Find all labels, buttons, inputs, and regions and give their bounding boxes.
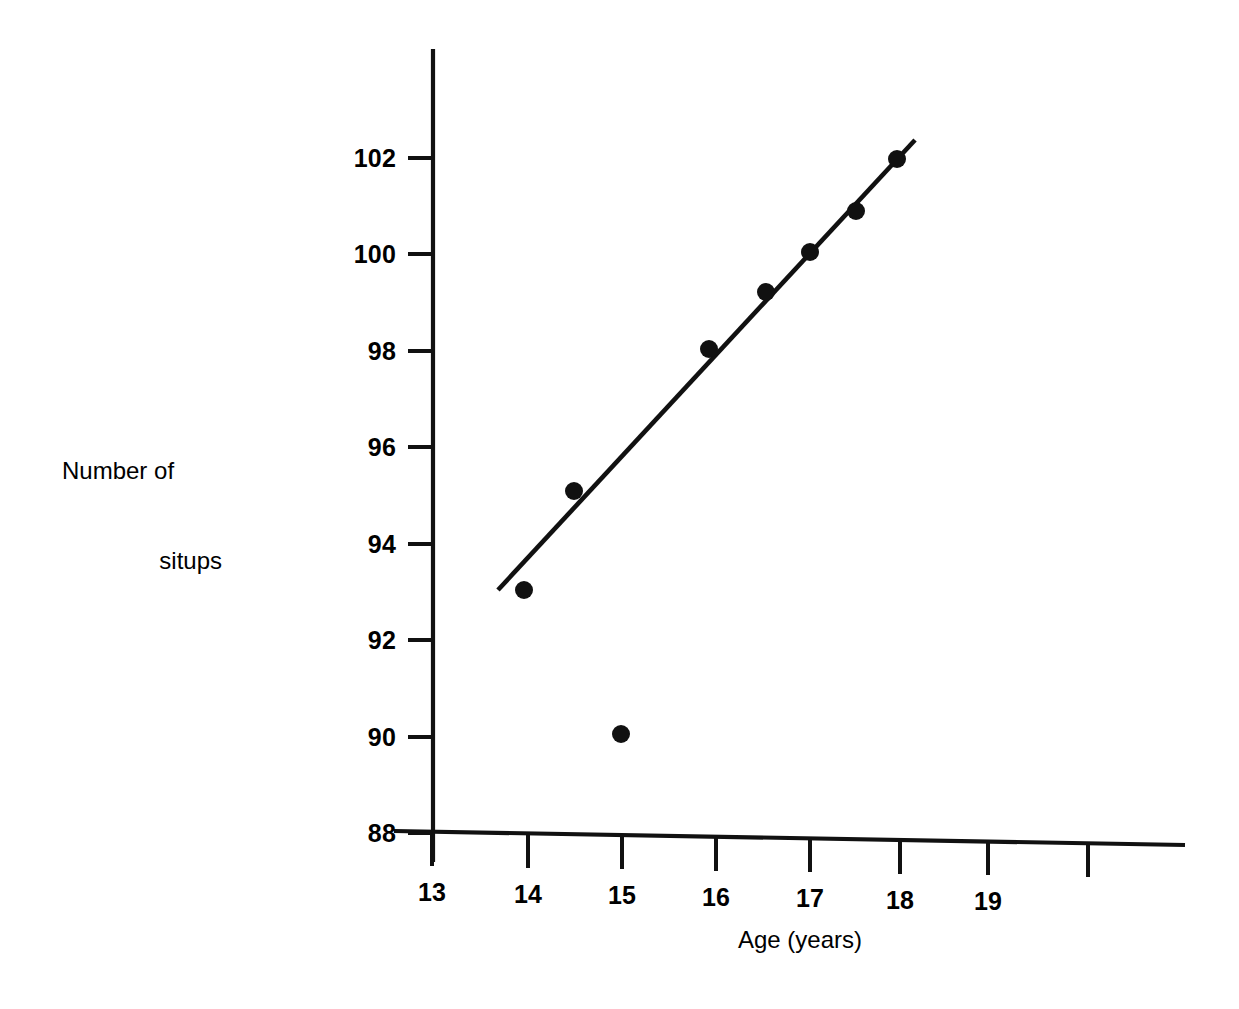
x-tick-label-16: 16 <box>702 883 730 912</box>
y-axis-title-line-2: situps <box>62 546 222 576</box>
y-tick-label-88: 88 <box>300 819 396 848</box>
scatter-plot-figure: 88 90 92 94 96 98 100 102 13 14 15 16 17… <box>0 0 1239 1009</box>
x-tick-label-15: 15 <box>608 881 636 910</box>
data-point <box>612 725 630 743</box>
data-points-group <box>515 150 906 743</box>
axes-group <box>394 49 1185 862</box>
y-tick-label-96: 96 <box>300 433 396 462</box>
x-tick-label-13: 13 <box>418 878 446 907</box>
x-tick-label-18: 18 <box>886 886 914 915</box>
x-axis-line <box>394 831 1185 845</box>
data-point <box>847 202 865 220</box>
y-tick-label-94: 94 <box>300 530 396 559</box>
y-tick-label-98: 98 <box>300 337 396 366</box>
x-axis-title: Age (years) <box>650 925 950 955</box>
y-tick-label-92: 92 <box>300 626 396 655</box>
data-point <box>801 243 819 261</box>
y-tick-label-102: 102 <box>300 144 396 173</box>
data-point <box>565 482 583 500</box>
x-tick-label-14: 14 <box>514 880 542 909</box>
data-point <box>700 340 718 358</box>
data-point <box>888 150 906 168</box>
y-tick-label-100: 100 <box>300 240 396 269</box>
y-axis-title-line-1: Number of <box>62 456 222 486</box>
data-point <box>757 283 775 301</box>
x-tick-label-17: 17 <box>796 884 824 913</box>
y-axis-ticks <box>408 158 433 833</box>
x-tick-label-19: 19 <box>974 887 1002 916</box>
y-tick-label-90: 90 <box>300 723 396 752</box>
data-point <box>515 581 533 599</box>
y-axis-title: Number of situps <box>62 396 222 636</box>
